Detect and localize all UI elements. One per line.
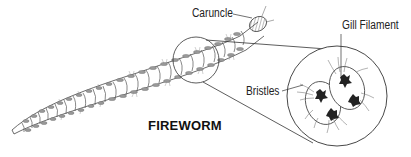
caruncle-label: Caruncle xyxy=(192,6,233,20)
caruncle-shape xyxy=(247,13,270,34)
caruncle-leader xyxy=(233,14,252,18)
bristles-label: Bristles xyxy=(246,84,279,98)
fireworm-diagram: Caruncle Gill Filament Bristles FIREWORM xyxy=(0,0,411,157)
gill-filament-label: Gill Filament xyxy=(342,18,399,32)
diagram-title: FIREWORM xyxy=(148,118,222,133)
worm-head xyxy=(247,6,274,35)
